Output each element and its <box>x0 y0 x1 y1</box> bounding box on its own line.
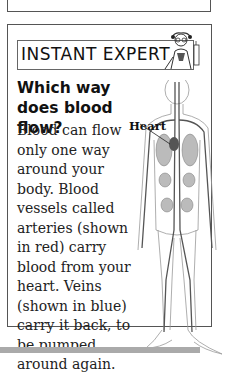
previous-panel-frame <box>7 0 211 12</box>
heart-label: Heart <box>129 119 166 133</box>
heart-icon <box>169 137 179 151</box>
professor-mascot-icon <box>163 31 205 71</box>
ground-bar <box>0 347 200 353</box>
banner-title: INSTANT EXPERT <box>21 44 170 64</box>
article-body: Blood can flow only one way around your … <box>17 121 142 375</box>
